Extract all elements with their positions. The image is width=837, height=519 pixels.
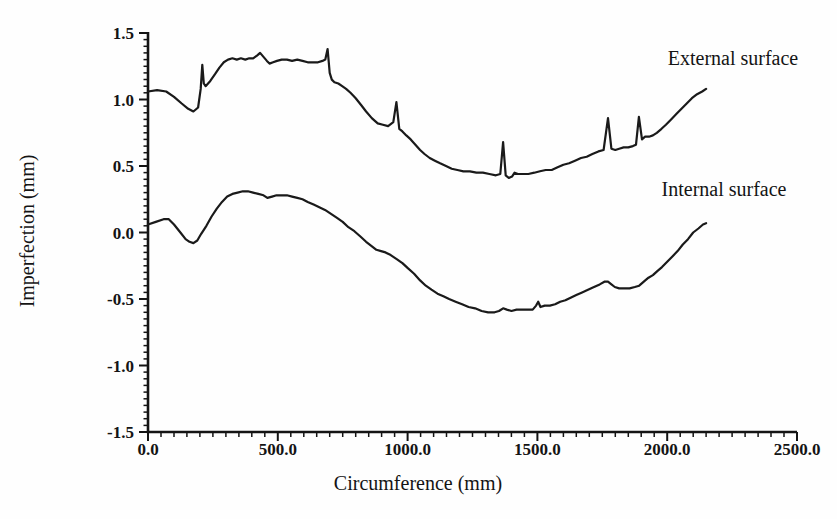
x-axis-tick-label: 1500.0	[514, 440, 561, 459]
x-axis-tick-label: 0.0	[137, 440, 158, 459]
y-axis-tick-label: 0.0	[113, 224, 134, 243]
x-axis-tick-label: 500.0	[259, 440, 297, 459]
y-axis-tick-label: 1.0	[113, 91, 134, 110]
y-axis-tick-label: -0.5	[107, 290, 134, 309]
y-axis-title: Imperfection (mm)	[16, 155, 39, 308]
series-label-internal: Internal surface	[662, 178, 787, 201]
x-axis-tick-label: 1000.0	[384, 440, 431, 459]
series-line-external	[148, 49, 706, 178]
x-axis-title: Circumference (mm)	[334, 472, 502, 495]
y-axis-tick-label: 1.5	[113, 24, 134, 43]
figure: 1.51.00.50.0-0.5-1.0-1.50.0500.01000.015…	[0, 0, 837, 519]
y-axis-tick-label: -1.5	[107, 423, 134, 442]
series-line-internal	[148, 191, 706, 312]
x-axis-tick-label: 2000.0	[644, 440, 691, 459]
series-label-external: External surface	[668, 47, 798, 70]
x-axis-tick-label: 2500.0	[774, 440, 821, 459]
y-axis-tick-label: -1.0	[107, 357, 134, 376]
y-axis-tick-label: 0.5	[113, 157, 134, 176]
chart-plot-area: 1.51.00.50.0-0.5-1.0-1.50.0500.01000.015…	[0, 0, 837, 519]
